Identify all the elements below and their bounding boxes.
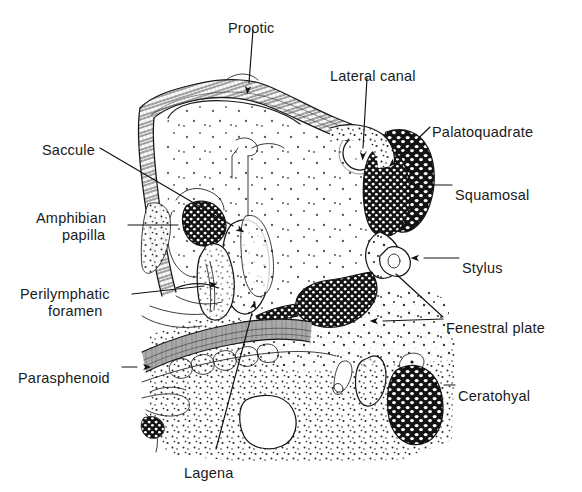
label-palatoquadrate: Palatoquadrate	[432, 124, 533, 140]
label-saccule: Saccule	[42, 142, 95, 158]
label-lateral-canal: Lateral canal	[330, 68, 416, 84]
illustration-canvas: ProoticLateral canalPalatoquadrateSquamo…	[0, 0, 582, 492]
label-lagena: Lagena	[184, 465, 234, 481]
label-prootic: Prootic	[228, 20, 275, 36]
label-squamosal: Squamosal	[455, 187, 529, 203]
ceratohyal-cartilage	[388, 366, 444, 445]
label-fenestral-plate: Fenestral plate	[446, 320, 545, 336]
label-amphibian-papilla: Amphibian	[36, 210, 106, 226]
stylus-process	[380, 247, 411, 277]
label-parasphenoid: Parasphenoid	[18, 370, 110, 386]
label-amphibian-papilla-line2: papilla	[62, 227, 106, 243]
label-stylus: Stylus	[462, 260, 503, 276]
anatomical-figure: ProoticLateral canalPalatoquadrateSquamo…	[0, 0, 582, 492]
label-perilymphatic-foramen: Perilymphatic	[20, 286, 110, 302]
loose-element-blob	[240, 395, 296, 448]
label-ceratohyal: Ceratohyal	[458, 388, 530, 404]
lagena-chamber	[197, 244, 234, 320]
label-perilymphatic-foramen-line2: foramen	[48, 303, 103, 319]
